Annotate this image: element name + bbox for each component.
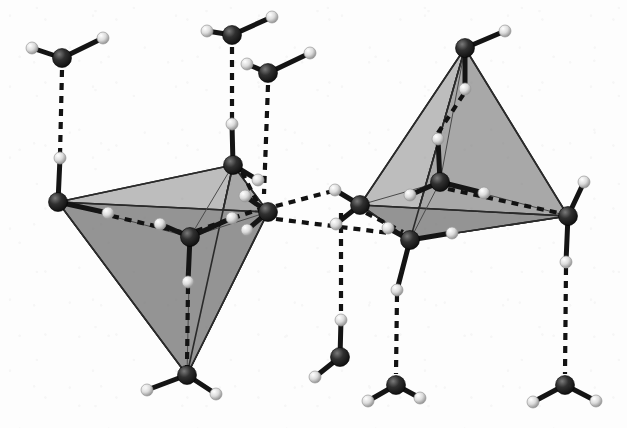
hydrogen-atom xyxy=(241,224,253,236)
oxygen-atom xyxy=(559,207,578,226)
hydrogen-atom xyxy=(560,256,572,268)
hydrogen-atom xyxy=(252,174,264,186)
hydrogen-atom xyxy=(309,371,321,383)
hydrogen-atom xyxy=(329,184,341,196)
oxygen-atom xyxy=(178,366,197,385)
oxygen-atom xyxy=(331,348,350,367)
hydrogen-atom xyxy=(97,32,109,44)
oxygen-atom xyxy=(431,173,450,192)
oxygen-atom xyxy=(259,203,278,222)
hydrogen-atom xyxy=(499,25,511,37)
molecular-figure xyxy=(0,0,627,428)
oxygen-atom xyxy=(387,376,406,395)
hydrogen-atom xyxy=(335,314,347,326)
hydrogen-atom xyxy=(304,47,316,59)
oxygen-atom xyxy=(223,26,242,45)
hydrogen-atom xyxy=(239,190,251,202)
hydrogen-atom xyxy=(432,133,444,145)
hydrogen-atom xyxy=(141,384,153,396)
oxygen-atom xyxy=(456,39,475,58)
oxygen-atom xyxy=(181,228,200,247)
hydrogen-atom xyxy=(478,187,490,199)
hydrogen-atom xyxy=(330,218,342,230)
hydrogen-atom xyxy=(26,42,38,54)
oxygen-atom xyxy=(401,231,420,250)
oxygen-atom xyxy=(224,156,243,175)
hydrogen-atom xyxy=(527,396,539,408)
hydrogen-atom xyxy=(391,284,403,296)
hydrogen-atom xyxy=(54,152,66,164)
hydrogen-atom xyxy=(362,395,374,407)
hydrogen-atom xyxy=(182,276,194,288)
hydrogen-atom xyxy=(201,25,213,37)
oxygen-atom xyxy=(351,196,370,215)
hydrogen-atom xyxy=(241,58,253,70)
oxygen-atom xyxy=(49,193,68,212)
hydrogen-atom xyxy=(210,388,222,400)
hydrogen-atom xyxy=(590,395,602,407)
hydrogen-atom xyxy=(154,218,166,230)
hydrogen-atom xyxy=(226,118,238,130)
hydrogen-atom xyxy=(414,392,426,404)
oxygen-atom xyxy=(556,376,575,395)
oxygen-atom xyxy=(259,64,278,83)
hydrogen-atom xyxy=(404,189,416,201)
hydrogen-atom xyxy=(226,212,238,224)
hydrogen-atom xyxy=(446,227,458,239)
hydrogen-atom xyxy=(578,176,590,188)
hydrogen-atom xyxy=(102,207,114,219)
hydrogen-atom xyxy=(382,222,394,234)
molecule-canvas xyxy=(0,0,627,428)
hydrogen-atom xyxy=(266,11,278,23)
hydrogen-atom xyxy=(459,83,471,95)
oxygen-atom xyxy=(53,49,72,68)
